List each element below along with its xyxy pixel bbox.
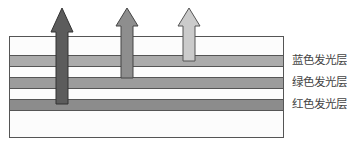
red-emission-arrow-icon xyxy=(51,8,73,104)
green-emission-arrow-icon xyxy=(116,8,138,78)
green-layer-label: 绿色发光层 xyxy=(292,76,347,88)
blue-layer-label: 蓝色发光层 xyxy=(292,54,347,66)
red-layer-label: 红色发光层 xyxy=(292,98,347,110)
blue-emission-arrow-icon xyxy=(178,8,200,61)
